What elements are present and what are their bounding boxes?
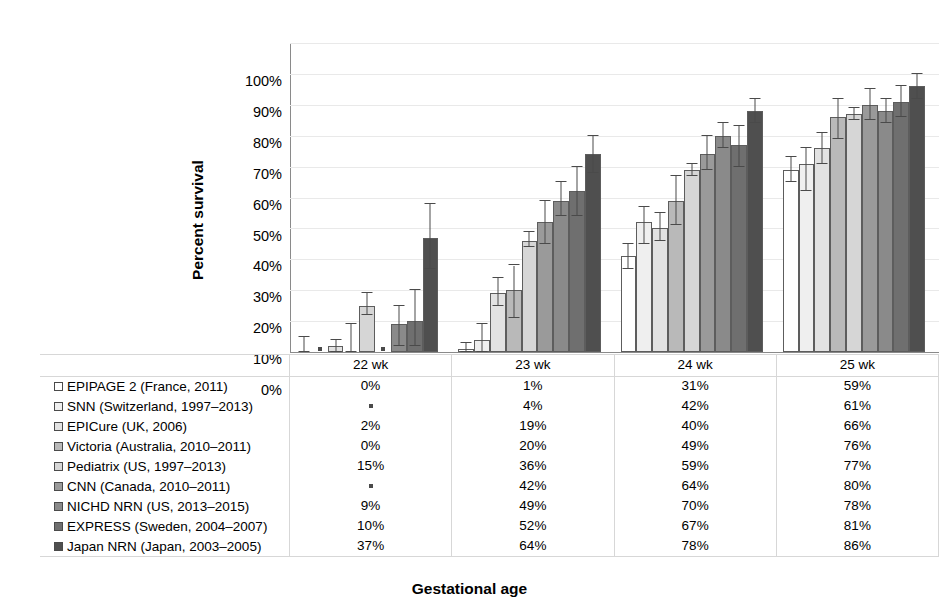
- missing-data-marker: [369, 484, 373, 488]
- bar-cell[interactable]: [423, 43, 439, 352]
- legend-entry[interactable]: EPIPAGE 2 (France, 2011): [40, 376, 290, 396]
- bar[interactable]: [700, 154, 716, 352]
- error-bar: [628, 244, 629, 269]
- bar-cell[interactable]: [684, 43, 700, 352]
- bar-cell[interactable]: [652, 43, 668, 352]
- bar[interactable]: [783, 170, 799, 352]
- error-bar-cap-high: [330, 339, 341, 340]
- bar-cell[interactable]: [909, 43, 925, 352]
- error-bar: [561, 182, 562, 216]
- bar-cell[interactable]: [783, 43, 799, 352]
- bar-cell[interactable]: [862, 43, 878, 352]
- table-row[interactable]: EPICure (UK, 2006)2%19%40%66%: [40, 416, 939, 436]
- bar-cell[interactable]: [731, 43, 747, 352]
- bar[interactable]: [862, 105, 878, 352]
- legend-entry[interactable]: EPICure (UK, 2006): [40, 416, 290, 436]
- bar-cell[interactable]: [522, 43, 538, 352]
- table-row[interactable]: Victoria (Australia, 2010–2011)0%20%49%7…: [40, 436, 939, 456]
- bar[interactable]: [553, 201, 569, 352]
- bar-cell[interactable]: [585, 43, 601, 352]
- bar-cell[interactable]: [343, 43, 359, 352]
- error-bar: [545, 201, 546, 244]
- error-bar-cap-low: [556, 215, 567, 216]
- bar[interactable]: [799, 164, 815, 352]
- bar-cell[interactable]: [621, 43, 637, 352]
- bar-cell[interactable]: [391, 43, 407, 352]
- error-bar-cap-high: [425, 203, 436, 204]
- table-row[interactable]: Pediatrix (US, 1997–2013)15%36%59%77%: [40, 456, 939, 476]
- error-bar-cap-high: [524, 231, 535, 232]
- bar[interactable]: [522, 241, 538, 352]
- bar[interactable]: [652, 228, 668, 352]
- bar[interactable]: [621, 256, 637, 352]
- bar[interactable]: [830, 117, 846, 352]
- error-bar: [723, 123, 724, 148]
- bar-cell[interactable]: [474, 43, 490, 352]
- table-cell: 59%: [615, 456, 777, 476]
- legend-entry[interactable]: Victoria (Australia, 2010–2011): [40, 436, 290, 456]
- error-bar-cap-low: [833, 138, 844, 139]
- table-row[interactable]: SNN (Switzerland, 1997–2013)4%42%61%: [40, 396, 939, 416]
- bar[interactable]: [747, 111, 763, 352]
- bar-cell[interactable]: [375, 43, 391, 352]
- table-cell: 77%: [777, 456, 939, 476]
- bar-cell[interactable]: [830, 43, 846, 352]
- error-bar-cap-high: [476, 323, 487, 324]
- table-row[interactable]: NICHD NRN (US, 2013–2015)9%49%70%78%: [40, 496, 939, 516]
- bar-cell[interactable]: [553, 43, 569, 352]
- bar[interactable]: [893, 102, 909, 352]
- bar-cell[interactable]: [328, 43, 344, 352]
- table-row[interactable]: CNN (Canada, 2010–2011)42%64%80%: [40, 476, 939, 496]
- bar-cell[interactable]: [715, 43, 731, 352]
- bar-cell[interactable]: [537, 43, 553, 352]
- y-tick-label: 50%: [230, 228, 282, 244]
- error-bar-cap-high: [393, 305, 404, 306]
- bar-cell[interactable]: [296, 43, 312, 352]
- error-bar-cap-low: [362, 314, 373, 315]
- bar-cell[interactable]: [490, 43, 506, 352]
- bar[interactable]: [909, 86, 925, 352]
- bar-cell[interactable]: [407, 43, 423, 352]
- bar[interactable]: [585, 154, 601, 352]
- legend-entry[interactable]: EXPRESS (Sweden, 2004–2007): [40, 516, 290, 536]
- bar-cell[interactable]: [846, 43, 862, 352]
- bar-cell[interactable]: [458, 43, 474, 352]
- error-bar-cap-high: [346, 323, 357, 324]
- bar-cell[interactable]: [893, 43, 909, 352]
- table-column-header: 22 wk: [290, 354, 452, 376]
- bar-cell[interactable]: [668, 43, 684, 352]
- bar-cell[interactable]: [636, 43, 652, 352]
- bar-cell[interactable]: [878, 43, 894, 352]
- legend-entry[interactable]: CNN (Canada, 2010–2011): [40, 476, 290, 496]
- table-row[interactable]: EPIPAGE 2 (France, 2011)0%1%31%59%: [40, 376, 939, 396]
- bar-cell[interactable]: [359, 43, 375, 352]
- bar-cell[interactable]: [312, 43, 328, 352]
- error-bar: [675, 176, 676, 225]
- table-row[interactable]: Japan NRN (Japan, 2003–2005)37%64%78%86%: [40, 536, 939, 556]
- legend-entry[interactable]: Pediatrix (US, 1997–2013): [40, 456, 290, 476]
- table-cell: 15%: [290, 456, 452, 476]
- bar[interactable]: [878, 111, 894, 352]
- table-cell: 78%: [777, 496, 939, 516]
- bar-cell[interactable]: [700, 43, 716, 352]
- bar-cell[interactable]: [747, 43, 763, 352]
- bar-cell[interactable]: [814, 43, 830, 352]
- bar[interactable]: [814, 148, 830, 352]
- error-bar-cap-low: [718, 147, 729, 148]
- bar-cell[interactable]: [569, 43, 585, 352]
- bar-cell[interactable]: [506, 43, 522, 352]
- legend-entry[interactable]: NICHD NRN (US, 2013–2015): [40, 496, 290, 516]
- error-bar-cap-high: [587, 135, 598, 136]
- bar[interactable]: [715, 136, 731, 352]
- legend-swatch-icon: [54, 402, 63, 411]
- error-bar: [754, 99, 755, 124]
- legend-entry[interactable]: SNN (Switzerland, 1997–2013): [40, 396, 290, 416]
- legend-entry[interactable]: Japan NRN (Japan, 2003–2005): [40, 536, 290, 556]
- table-row[interactable]: EXPRESS (Sweden, 2004–2007)10%52%67%81%: [40, 516, 939, 536]
- bar-cell[interactable]: [799, 43, 815, 352]
- bar[interactable]: [684, 170, 700, 352]
- table-cell: 59%: [777, 376, 939, 396]
- bar[interactable]: [731, 145, 747, 352]
- bar[interactable]: [846, 114, 862, 352]
- table-cell: 81%: [777, 516, 939, 536]
